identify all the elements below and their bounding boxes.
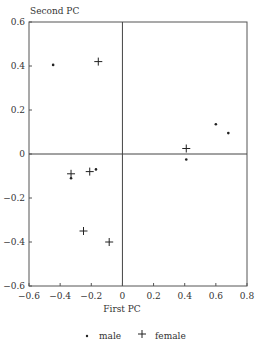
x-tick-label: −0.2 <box>80 291 102 301</box>
legend: male female <box>86 330 186 341</box>
x-axis-label: First PC <box>103 304 141 314</box>
female-point <box>80 227 88 235</box>
y-tick-label: −0.2 <box>3 193 25 203</box>
y-tick-label: 0.4 <box>11 61 26 71</box>
female-point <box>94 58 102 66</box>
female-marker-icon <box>138 330 146 338</box>
legend-male-label: male <box>99 331 121 341</box>
axis-ticks: −0.6−0.4−0.200.20.40.60.80.60.40.20−0.2−… <box>3 17 254 301</box>
plot-frame <box>29 22 247 286</box>
male-point <box>52 64 55 67</box>
y-tick-label: 0.6 <box>11 17 26 27</box>
male-point <box>215 123 218 126</box>
female-point <box>182 145 190 153</box>
male-point <box>227 132 230 135</box>
male-point <box>95 168 98 171</box>
x-tick-label: 0.4 <box>178 291 193 301</box>
x-tick-label: 0.6 <box>209 291 224 301</box>
female-point <box>67 170 75 178</box>
legend-female-label: female <box>155 331 186 341</box>
y-tick-label: −0.4 <box>3 237 25 247</box>
y-tick-label: 0 <box>19 149 25 159</box>
male-point <box>185 158 188 161</box>
x-tick-label: −0.6 <box>18 291 40 301</box>
y-tick-label: −0.6 <box>3 281 25 291</box>
male-marker-icon <box>86 335 88 337</box>
data-points <box>52 58 230 246</box>
y-tick-label: 0.2 <box>11 105 25 115</box>
x-tick-label: −0.4 <box>49 291 71 301</box>
female-point <box>105 238 113 246</box>
y-axis-label: Second PC <box>30 6 79 16</box>
x-tick-label: 0.8 <box>240 291 255 301</box>
female-point <box>86 168 94 176</box>
scatter-chart: −0.6−0.4−0.200.20.40.60.80.60.40.20−0.2−… <box>0 0 260 341</box>
x-tick-label: 0 <box>120 291 126 301</box>
x-tick-label: 0.2 <box>146 291 160 301</box>
